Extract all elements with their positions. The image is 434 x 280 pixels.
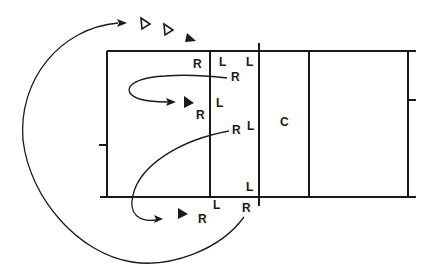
outline-triangle-icon — [164, 24, 173, 35]
label-l: L — [216, 96, 223, 110]
court — [99, 43, 416, 206]
filled-triangle-icon — [178, 208, 188, 219]
label-r: R — [231, 70, 240, 84]
label-r: R — [193, 57, 202, 71]
label-r: R — [198, 212, 207, 226]
arrowhead-icon — [117, 19, 127, 27]
player-markers — [141, 18, 196, 219]
label-r: R — [242, 201, 251, 215]
label-l: L — [246, 55, 253, 69]
zone-label-c: C — [280, 115, 289, 129]
filled-triangle-icon — [184, 96, 194, 108]
label-l: L — [247, 119, 254, 133]
position-labels: R L L R L R R L C L L R R — [193, 55, 289, 226]
label-r: R — [232, 123, 241, 137]
label-l: L — [213, 198, 220, 212]
volleyball-diagram: R L L R L R R L C L L R R — [0, 0, 434, 280]
filled-triangle-icon — [185, 33, 196, 42]
outline-triangle-icon — [141, 18, 150, 29]
upper-loop-path — [129, 75, 227, 102]
label-r: R — [196, 108, 205, 122]
label-l: L — [219, 55, 226, 69]
label-l: L — [246, 180, 253, 194]
arrowhead-icon — [154, 215, 163, 223]
